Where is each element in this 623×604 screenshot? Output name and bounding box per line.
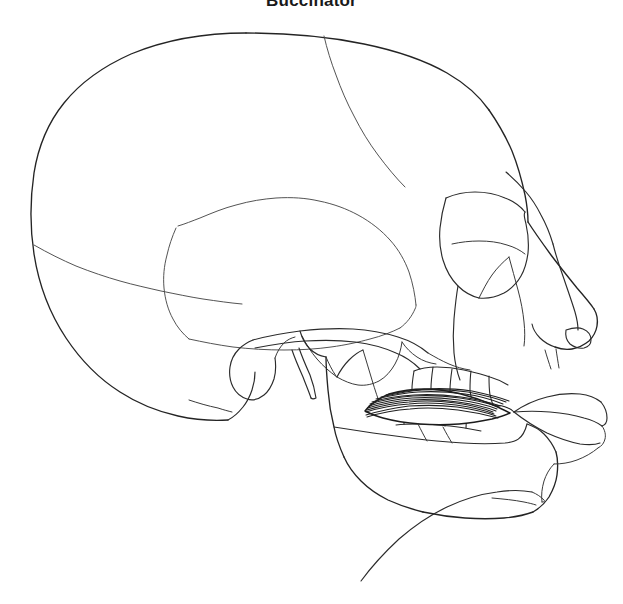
submandibular-line — [532, 492, 545, 502]
buccinator-lower-slip-2 — [443, 427, 452, 443]
nasal-aperture-edge — [553, 244, 578, 330]
zygomatic-arch-lower — [255, 340, 420, 369]
squamosal-suture — [178, 198, 416, 305]
neck-contour — [361, 491, 532, 582]
orbit-inner-contour — [452, 241, 525, 254]
lambdoid-suture — [34, 245, 242, 304]
chin-contour — [533, 452, 558, 512]
frontal-nasal-contour — [489, 110, 528, 222]
anatomy-figure: Buccinator — [0, 0, 623, 604]
condylar-process — [300, 331, 326, 357]
mandible-body-lower-border — [423, 512, 533, 519]
lower-lip — [514, 412, 600, 445]
lower-lip-outer — [598, 426, 605, 448]
mandibular-angle — [344, 457, 423, 512]
columella — [556, 349, 559, 368]
orbit-lower-rim — [479, 212, 528, 298]
occipital-base-line — [189, 400, 232, 412]
mentolabial-sulcus — [554, 448, 598, 464]
philtrum-edge — [601, 402, 607, 426]
nostril — [566, 328, 591, 348]
pterygoid-plate-contour — [402, 342, 436, 364]
infraorbital-detail — [479, 257, 509, 298]
coronoid-process — [337, 350, 363, 377]
nose-profile — [528, 222, 594, 309]
orbit-upper-rim — [446, 192, 525, 212]
mental-protuberance — [527, 424, 556, 452]
upper-lip — [514, 394, 601, 412]
chin-soft-tissue — [542, 464, 554, 502]
hyoid-region-line — [492, 498, 536, 505]
mandibular-notch — [326, 357, 337, 377]
mandible-alveolar-border — [334, 424, 527, 444]
upper-teeth-row — [414, 367, 508, 385]
glabella-contour — [506, 172, 553, 244]
parietal-temporal-contour — [400, 305, 416, 328]
nasal-base-edge — [545, 350, 551, 369]
frontal-bone-upper-outline — [246, 33, 489, 110]
buccinator-lower-slip — [418, 424, 427, 441]
cranial-vault-outline — [31, 33, 246, 420]
orbit-lateral-rim — [440, 198, 479, 298]
temporal-squama-lower — [164, 228, 189, 339]
skull-illustration — [0, 0, 623, 604]
mandibular-ramus-posterior — [326, 357, 344, 457]
coronal-suture — [324, 36, 405, 187]
external-acoustic-meatus — [275, 337, 295, 358]
styloid-process — [292, 350, 311, 398]
maxilla-anterior-contour — [509, 257, 525, 346]
nasal-base-line — [532, 324, 555, 347]
